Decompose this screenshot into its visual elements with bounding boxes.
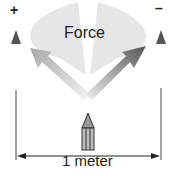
positive-charge-icon (11, 30, 21, 44)
negative-label: – (155, 0, 163, 16)
pencil-icon (82, 113, 94, 150)
distance-label: 1 meter (62, 152, 113, 169)
force-label: Force (64, 24, 105, 42)
positive-label: + (10, 2, 18, 18)
negative-charge-icon (156, 30, 166, 44)
